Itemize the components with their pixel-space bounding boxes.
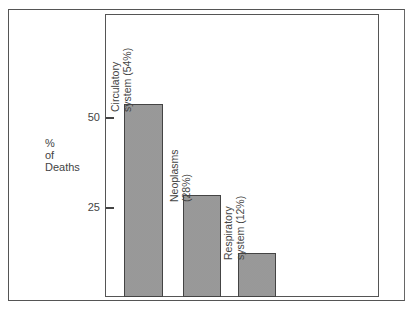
y-tick-label-25: 25 xyxy=(70,201,100,213)
bar-label-line: Neoplasms xyxy=(168,149,180,202)
y-axis-label-line: % xyxy=(45,137,80,149)
bar-label-respiratory-system: Respiratory system (12%) xyxy=(222,196,246,260)
bar-neoplasms xyxy=(183,195,221,297)
bar-label-line: Circulatory xyxy=(109,48,121,112)
y-tick-label-50: 50 xyxy=(70,111,100,123)
bar-label-line: Respiratory xyxy=(222,196,234,260)
bar-label-line: system (12%) xyxy=(234,196,246,260)
bar-label-line: system (54%) xyxy=(121,48,133,112)
y-axis-label: % of Deaths xyxy=(45,137,80,173)
y-axis-label-line: of xyxy=(45,149,80,161)
y-tick-25 xyxy=(106,207,114,209)
y-axis-label-line: Deaths xyxy=(45,161,80,173)
bar-label-neoplasms: Neoplasms (28%) xyxy=(168,149,192,202)
bar-label-line: (28%) xyxy=(180,149,192,202)
bar-circulatory-system xyxy=(124,104,163,297)
y-tick-50 xyxy=(106,117,114,119)
bar-label-circulatory-system: Circulatory system (54%) xyxy=(109,48,133,112)
